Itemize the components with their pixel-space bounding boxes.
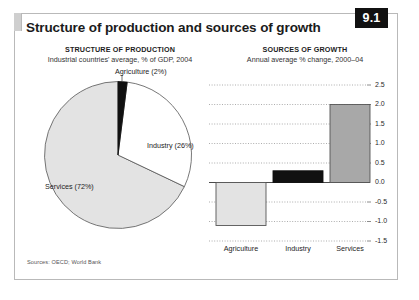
y-tick-label-2-0: 2.0 (375, 100, 385, 107)
y-tick-label-0-0: 0.0 (375, 178, 385, 185)
y-tick-label-2-5: 2.5 (375, 81, 385, 88)
y-tick-label-neg-0-5: -0.5 (375, 198, 387, 205)
left-panel-title: STRUCTURE OF PRODUCTION (35, 45, 205, 54)
x-category-agriculture: Agriculture (216, 244, 266, 253)
x-category-industry: Industry (273, 244, 323, 253)
bar-chart-svg (207, 78, 397, 243)
y-tick-label-0-5: 0.5 (375, 159, 385, 166)
x-category-services: Services (327, 244, 373, 253)
pie-chart: Agriculture (2%) Industry (26%) Services… (24, 62, 214, 237)
y-tick-label-1-0: 1.0 (375, 139, 385, 146)
figure-number-badge: 9.1 (355, 8, 388, 28)
right-panel-title: SOURCES OF GROWTH (225, 45, 385, 54)
y-tick-label-neg-1-5: -1.5 (375, 237, 387, 244)
bar-agriculture (216, 183, 266, 226)
pie-label-industry: Industry (26%) (147, 141, 194, 150)
bar-services (330, 105, 370, 183)
y-tick-label-neg-1-0: -1.0 (375, 217, 387, 224)
bar-chart: 2.5 2.0 1.5 1.0 0.5 0.0 -0.5 -1.0 -1.5 A… (207, 78, 397, 243)
y-tick-label-1-5: 1.5 (375, 120, 385, 127)
page-title: Structure of production and sources of g… (26, 20, 321, 35)
figure-page: Structure of production and sources of g… (0, 0, 419, 300)
pie-label-agriculture: Agriculture (2%) (115, 67, 167, 76)
pie-label-services: Services (72%) (45, 182, 94, 191)
bar-industry (273, 171, 323, 183)
sources-note: Sources: OECD; World Bank (27, 259, 101, 265)
right-panel-subtitle: Annual average % change, 2000–04 (215, 55, 395, 64)
page-spine-tab (14, 13, 22, 31)
